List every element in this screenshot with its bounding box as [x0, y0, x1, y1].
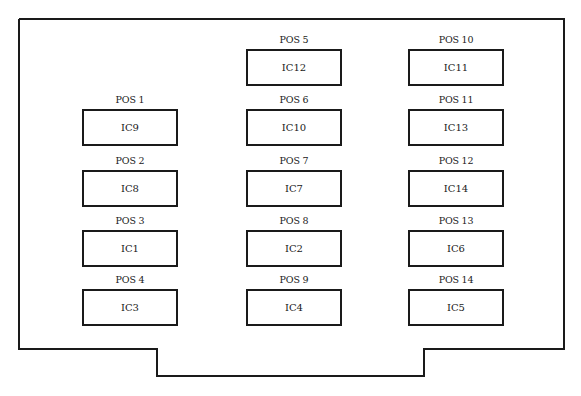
ic-chip: IC5	[408, 289, 504, 326]
ic-chip: IC10	[246, 109, 342, 146]
pos-label: POS 13	[408, 215, 504, 226]
pos-label: POS 3	[82, 215, 178, 226]
pos-label: POS 1	[82, 94, 178, 105]
ic-chip: IC12	[246, 49, 342, 86]
pos-label: POS 11	[408, 94, 504, 105]
ic-chip: IC7	[246, 170, 342, 207]
ic-chip: IC2	[246, 230, 342, 267]
ic-chip: IC8	[82, 170, 178, 207]
ic-chip: IC11	[408, 49, 504, 86]
pos-label: POS 7	[246, 155, 342, 166]
pos-label: POS 8	[246, 215, 342, 226]
pos-label: POS 2	[82, 155, 178, 166]
pos-label: POS 12	[408, 155, 504, 166]
ic-chip: IC9	[82, 109, 178, 146]
ic-chip: IC6	[408, 230, 504, 267]
pos-label: POS 4	[82, 274, 178, 285]
ic-chip: IC13	[408, 109, 504, 146]
pos-label: POS 10	[408, 34, 504, 45]
ic-chip: IC3	[82, 289, 178, 326]
ic-chip: IC1	[82, 230, 178, 267]
ic-chip: IC4	[246, 289, 342, 326]
pos-label: POS 6	[246, 94, 342, 105]
pos-label: POS 9	[246, 274, 342, 285]
pos-label: POS 5	[246, 34, 342, 45]
ic-chip: IC14	[408, 170, 504, 207]
pos-label: POS 14	[408, 274, 504, 285]
